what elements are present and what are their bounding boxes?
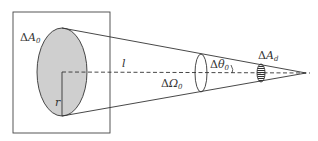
- cone-lower-edge: [62, 73, 306, 116]
- detector-disk: [257, 64, 265, 82]
- diagram-canvas: [0, 0, 318, 141]
- solid-angle-diagram: ΔA0 l r ΔΩ0 Δθ0 ΔAd: [0, 0, 318, 141]
- label-source-area: ΔA0: [20, 32, 40, 45]
- label-radius: r: [55, 97, 60, 108]
- label-solid-angle: ΔΩ0: [161, 78, 183, 91]
- label-detector-area: ΔAd: [258, 50, 278, 63]
- angle-arc: [231, 65, 233, 73]
- label-half-angle: Δθ0: [210, 59, 229, 72]
- label-distance: l: [122, 58, 126, 69]
- axis-dashed-line: [62, 72, 310, 73]
